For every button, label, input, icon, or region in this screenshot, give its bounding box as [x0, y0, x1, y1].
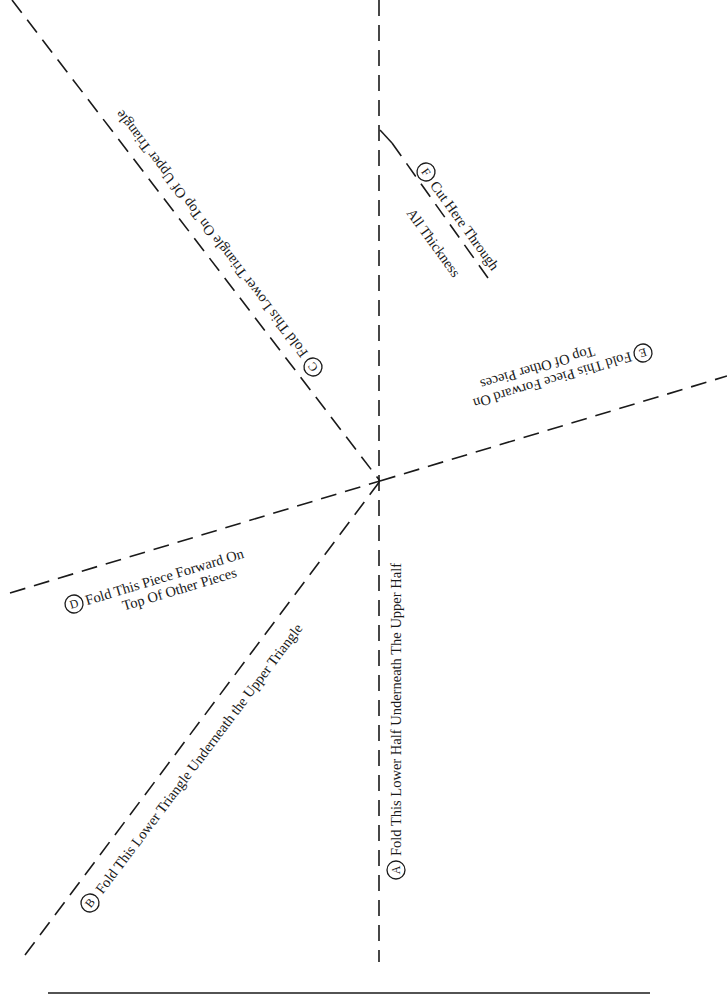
- label-b: B Fold This Lower Triangle Underneath th…: [77, 620, 306, 916]
- fold-line-c: [12, 0, 380, 481]
- letter-a: A: [389, 865, 403, 874]
- fold-line-b: [25, 481, 380, 955]
- label-b-text: Fold This Lower Triangle Underneath the …: [92, 621, 306, 897]
- letter-f: F: [418, 165, 433, 179]
- label-e: E Fold This Piece Forward On Top Of Othe…: [466, 327, 654, 413]
- letter-b: B: [82, 896, 98, 911]
- label-a-text: Fold This Lower Half Underneath The Uppe…: [388, 563, 404, 856]
- label-a: A Fold This Lower Half Underneath The Up…: [387, 563, 405, 879]
- cut-line-f-start: [380, 130, 392, 143]
- fold-diagram: A Fold This Lower Half Underneath The Up…: [0, 0, 727, 1004]
- fold-line-e: [380, 376, 727, 481]
- label-c: C Fold This Lower Triangle On Top Of Upp…: [111, 107, 326, 380]
- letter-d: D: [68, 596, 81, 612]
- label-d: D Fold This Piece Forward On Top Of Othe…: [63, 544, 251, 630]
- letter-e: E: [637, 345, 648, 361]
- label-c-text: Fold This Lower Triangle On Top Of Upper…: [112, 107, 311, 361]
- label-f: F Cut Here Through: [413, 159, 503, 274]
- letter-c: C: [305, 360, 321, 375]
